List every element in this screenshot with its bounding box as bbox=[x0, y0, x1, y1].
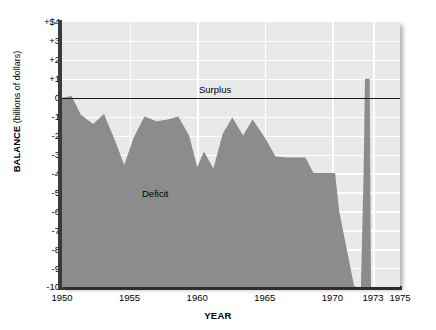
x-tick-1950: 1950 bbox=[42, 292, 82, 303]
y-tick-2: +2 bbox=[24, 55, 60, 65]
x-tick-1975: 1975 bbox=[380, 292, 420, 303]
y-tick-m8: -8 bbox=[24, 245, 60, 255]
y-tick-m5: -5 bbox=[24, 188, 60, 198]
y-tick-1: +1 bbox=[24, 74, 60, 84]
plot-area: Surplus Deficit bbox=[62, 22, 400, 287]
y-tick-m2: -2 bbox=[24, 131, 60, 141]
y-tick-m7: -7 bbox=[24, 226, 60, 236]
y-axis-ticks: +$4 +3 +2 +1 0 -1 -2 -3 -4 -5 -6 -7 -8 -… bbox=[18, 0, 60, 330]
chart-figure: BALANCE (billions of dollars) +$4 +3 +2 … bbox=[0, 0, 436, 330]
x-tick-1955: 1955 bbox=[110, 292, 150, 303]
annotation-deficit: Deficit bbox=[142, 188, 168, 199]
x-tick-1960: 1960 bbox=[177, 292, 217, 303]
y-tick-m1: -1 bbox=[24, 112, 60, 122]
y-tick-0: 0 bbox=[24, 93, 60, 103]
x-tick-1970: 1970 bbox=[312, 292, 352, 303]
y-tick-4: +$4 bbox=[24, 17, 60, 27]
x-tick-1965: 1965 bbox=[245, 292, 285, 303]
y-tick-m3: -3 bbox=[24, 150, 60, 160]
y-tick-m6: -6 bbox=[24, 207, 60, 217]
y-tick-3: +3 bbox=[24, 36, 60, 46]
y-axis-line bbox=[58, 20, 62, 289]
zero-balance-line bbox=[62, 98, 400, 100]
y-tick-m9: -9 bbox=[24, 264, 60, 274]
x-axis-title: YEAR bbox=[0, 310, 436, 321]
balance-area-path bbox=[62, 79, 371, 287]
balance-area-series bbox=[62, 22, 400, 287]
annotation-surplus: Surplus bbox=[199, 84, 231, 95]
y-tick-m4: -4 bbox=[24, 169, 60, 179]
y-tick-m10: -10 bbox=[24, 282, 60, 292]
